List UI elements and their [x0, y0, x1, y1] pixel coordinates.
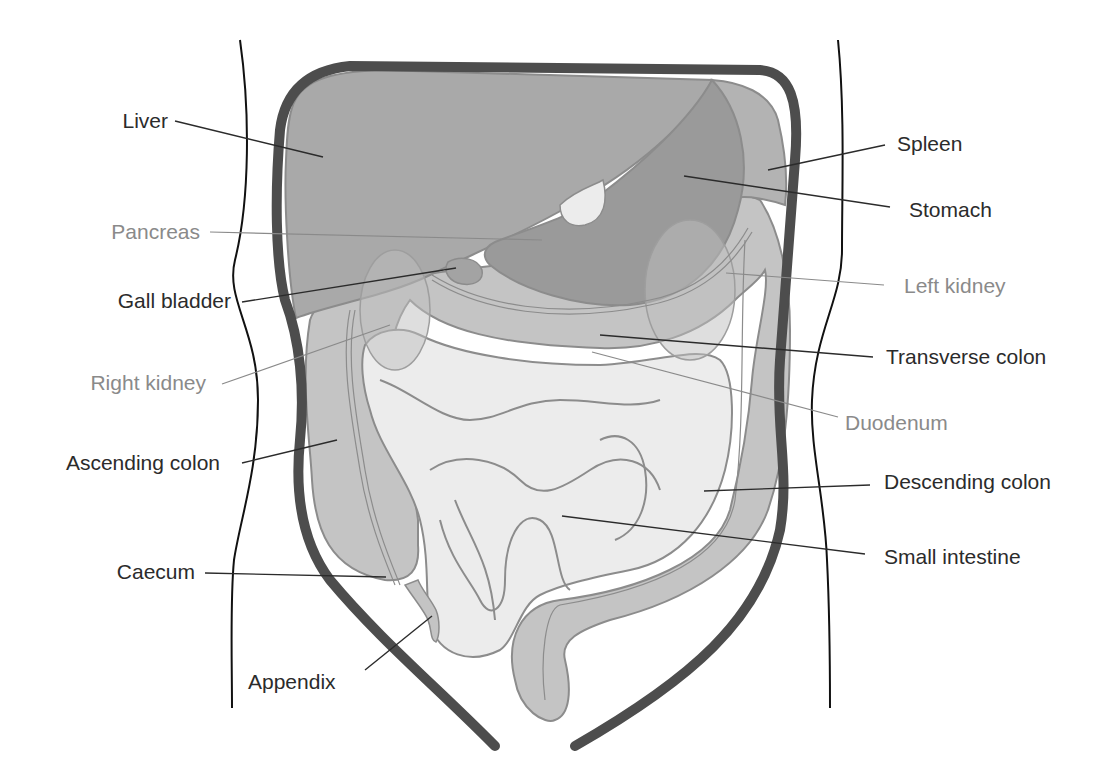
left-kidney-shape [645, 220, 735, 360]
label-small-intestine: Small intestine [884, 545, 1021, 568]
label-gall-bladder: Gall bladder [118, 289, 231, 312]
label-right-kidney: Right kidney [90, 371, 206, 394]
label-caecum: Caecum [117, 560, 195, 583]
label-stomach: Stomach [909, 198, 992, 221]
label-spleen: Spleen [897, 132, 962, 155]
right-kidney-shape [360, 250, 430, 370]
label-pancreas: Pancreas [111, 220, 200, 243]
label-descending-colon: Descending colon [884, 470, 1051, 493]
label-appendix: Appendix [248, 670, 336, 693]
label-duodenum: Duodenum [845, 411, 948, 434]
body-outline-right [812, 40, 843, 708]
label-left-kidney: Left kidney [904, 274, 1006, 297]
abdominal-organs-diagram: Liver Pancreas Gall bladder Right kidney… [0, 0, 1117, 774]
label-ascending-colon: Ascending colon [66, 451, 220, 474]
label-transverse-colon: Transverse colon [886, 345, 1046, 368]
label-liver: Liver [122, 109, 168, 132]
